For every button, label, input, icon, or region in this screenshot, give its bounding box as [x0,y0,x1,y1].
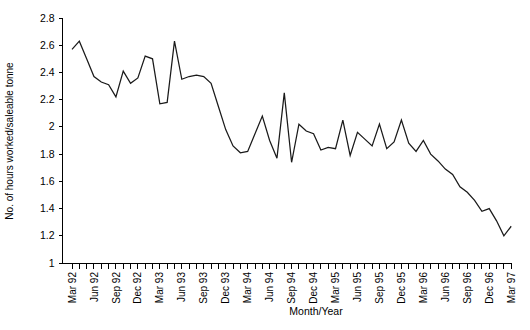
x-tick-label: Sep 93 [198,272,209,304]
y-tick-label: 1.4 [40,202,55,214]
data-line-hours-per-tonne [72,41,511,236]
x-tick-label: Dec 96 [484,272,495,304]
y-axis-title: No. of hours worked/saleable tonne [4,62,15,220]
x-tick-label: Sep 96 [462,272,473,304]
y-axis-group: 11.21.41.61.822.22.42.62.8 No. of hours … [4,12,63,269]
x-tick-label: Mar 93 [154,272,165,304]
y-tick-label: 1.2 [40,229,55,241]
x-tick-label: Jun 95 [352,272,363,302]
x-tick-label: Jun 96 [440,272,451,302]
y-tick-label: 1.8 [40,148,55,160]
x-axis-ticks [72,264,511,269]
x-tick-label: Sep 94 [286,272,297,304]
y-axis-ticks [59,18,63,263]
x-tick-label: Sep 92 [111,272,122,304]
y-axis-tick-labels: 11.21.41.61.822.22.42.62.8 [40,12,55,269]
x-tick-label: Jun 92 [89,272,100,302]
x-tick-label: Mar 94 [242,272,253,304]
y-tick-label: 2.8 [40,12,55,24]
x-tick-label: Jun 94 [264,272,275,302]
x-tick-label: Mar 92 [67,272,78,304]
x-tick-label: Sep 95 [374,272,385,304]
y-tick-label: 2 [49,120,55,132]
x-tick-label: Jun 93 [176,272,187,302]
x-axis-group: Mar 92Jun 92Sep 92Dec 92Mar 93Jun 93Sep … [63,264,517,318]
x-tick-label: Dec 92 [132,272,143,304]
x-tick-label: Mar 96 [418,272,429,304]
x-axis-title: Month/Year [289,305,343,317]
data-series-group [72,41,511,236]
x-tick-label: Dec 95 [396,272,407,304]
y-tick-label: 1 [49,257,55,269]
x-tick-label: Mar 95 [330,272,341,304]
chart-container: 11.21.41.61.822.22.42.62.8 No. of hours … [0,0,530,330]
x-tick-label: Dec 94 [308,272,319,304]
line-chart: 11.21.41.61.822.22.42.62.8 No. of hours … [0,0,530,330]
x-tick-label: Mar 97 [506,272,517,304]
y-tick-label: 2.2 [40,93,55,105]
y-tick-label: 1.6 [40,175,55,187]
x-axis-tick-labels: Mar 92Jun 92Sep 92Dec 92Mar 93Jun 93Sep … [67,272,517,304]
y-tick-label: 2.6 [40,39,55,51]
y-tick-label: 2.4 [40,66,55,78]
x-tick-label: Dec 93 [220,272,231,304]
